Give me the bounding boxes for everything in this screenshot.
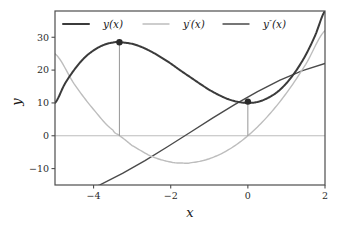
chart-figure: −4−202 −100102030 x y y(x)y′(x)y″(x) (0, 0, 340, 229)
y-axis-title: y (9, 98, 24, 107)
x-tick-label: −4 (87, 190, 101, 201)
legend-label-0: y(x) (102, 18, 123, 30)
y-tick-label: 10 (37, 97, 49, 108)
y-tick-label: 0 (43, 130, 49, 141)
x-tick-label: 0 (245, 190, 251, 201)
x-tick-label: 2 (322, 190, 328, 201)
legend-label-1: y′(x) (182, 18, 205, 30)
plot-canvas: −4−202 −100102030 x y y(x)y′(x)y″(x) (0, 0, 340, 229)
y-tick-label: 20 (37, 64, 49, 75)
marker-local-maximum (116, 39, 122, 45)
y-tick-label: 30 (37, 32, 49, 43)
plot-area-background (55, 11, 325, 185)
x-tick-label: −2 (164, 190, 178, 201)
legend-label-2: y″(x) (262, 18, 286, 30)
y-axis-tick-labels: −100102030 (29, 32, 49, 174)
x-axis-tick-labels: −4−202 (87, 190, 328, 201)
marker-local-minimum (245, 98, 251, 104)
y-tick-label: −10 (29, 163, 49, 174)
x-axis-title: x (186, 205, 194, 220)
